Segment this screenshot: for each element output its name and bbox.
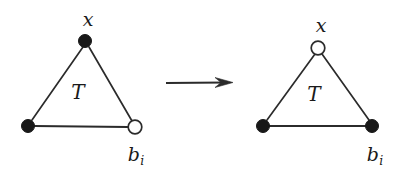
left-node-top-label: x	[83, 8, 94, 30]
right-b-base: b	[367, 143, 379, 165]
transformation-arrow	[166, 78, 233, 88]
left-b-subscript: i	[140, 153, 144, 168]
figure-svg: T x bi T x	[0, 0, 403, 174]
right-edge-top-to-bottomright	[322, 54, 369, 120]
arrow-shaft	[166, 83, 226, 84]
right-node-bottomright-filled[interactable]	[366, 120, 379, 133]
left-node-top-filled[interactable]	[79, 35, 92, 48]
right-node-bottomleft-filled[interactable]	[257, 120, 270, 133]
left-node-bottomright-open[interactable]	[128, 120, 142, 134]
right-interior-label: T	[307, 82, 322, 106]
left-graph: T x bi	[22, 8, 145, 168]
right-node-bottomright-label: bi	[367, 143, 384, 168]
right-graph: T x bi	[257, 14, 384, 168]
left-interior-label: T	[71, 80, 86, 104]
right-node-top-label: x	[316, 14, 327, 36]
left-b-base: b	[128, 143, 140, 165]
right-b-subscript: i	[379, 153, 383, 168]
left-node-bottomright-label: bi	[128, 143, 145, 168]
left-edge-top-to-bottomright	[89, 47, 132, 121]
left-node-bottomleft-filled[interactable]	[22, 120, 35, 133]
right-node-top-open[interactable]	[311, 41, 325, 55]
figure-canvas: T x bi T x	[0, 0, 403, 174]
left-edge-bottomleft-to-bottomright	[34, 126, 128, 127]
